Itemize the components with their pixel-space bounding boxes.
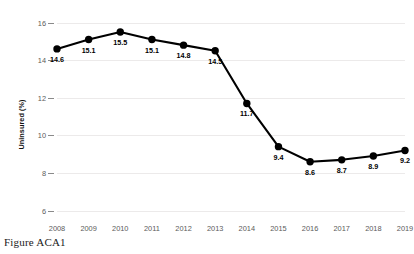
y-tick-mark	[48, 173, 54, 174]
y-axis-title: Uninsured (%)	[14, 78, 28, 170]
data-label-2008: 14.6	[50, 55, 64, 64]
y-tick-label: 12	[38, 93, 46, 102]
data-label-2017: 8.7	[337, 166, 347, 175]
data-label-2014: 11.7	[240, 109, 254, 118]
data-label-2015: 9.4	[273, 153, 283, 162]
x-tick-label-2016: 2016	[302, 224, 318, 233]
x-tick-label-2014: 2014	[239, 224, 255, 233]
data-point-2014	[243, 100, 250, 107]
y-tick-mark	[48, 211, 54, 212]
y-tick-mark	[48, 135, 54, 136]
data-label-2016: 8.6	[305, 168, 315, 177]
y-tick-label: 14	[38, 56, 46, 65]
figure-aca1: Uninsured (%) 6810121416 14.615.115.515.…	[0, 0, 414, 254]
x-tick-label-2013: 2013	[207, 224, 223, 233]
data-point-2019	[401, 147, 408, 154]
series-markers-group	[53, 28, 408, 165]
data-point-2012	[180, 41, 187, 48]
x-tick-label-2011: 2011	[144, 224, 160, 233]
y-tick-label: 6	[42, 206, 46, 215]
y-axis-title-label: Uninsured (%)	[17, 99, 26, 149]
data-point-2016	[306, 158, 313, 165]
y-tick-mark	[48, 98, 54, 99]
x-tick-label-2009: 2009	[80, 224, 96, 233]
data-label-2011: 15.1	[145, 46, 159, 55]
y-tick-label: 16	[38, 18, 46, 27]
data-label-2019: 9.2	[400, 156, 410, 165]
plot-area: 6810121416 14.615.115.515.114.814.511.79…	[57, 16, 405, 220]
x-tick-label-2015: 2015	[270, 224, 286, 233]
x-tick-label-2012: 2012	[175, 224, 191, 233]
y-tick-mark	[48, 23, 54, 24]
x-tick-label-2019: 2019	[397, 224, 413, 233]
x-tick-label-2018: 2018	[365, 224, 381, 233]
data-point-2008	[53, 45, 60, 52]
data-point-2018	[370, 152, 377, 159]
data-label-2009: 15.1	[82, 46, 96, 55]
data-label-2013: 14.5	[208, 57, 222, 66]
figure-caption: Figure ACA1	[4, 236, 66, 248]
y-tick-label: 8	[42, 168, 46, 177]
data-label-2018: 8.9	[368, 162, 378, 171]
data-point-2015	[275, 143, 282, 150]
x-tick-label-2008: 2008	[49, 224, 65, 233]
x-tick-label-2010: 2010	[112, 224, 128, 233]
data-point-2013	[211, 47, 218, 54]
data-label-2012: 14.8	[177, 51, 191, 60]
data-point-2010	[117, 28, 124, 35]
data-label-2010: 15.5	[113, 38, 127, 47]
x-tick-label-2017: 2017	[333, 224, 349, 233]
data-point-2009	[85, 36, 92, 43]
data-point-2011	[148, 36, 155, 43]
y-tick-label: 10	[38, 131, 46, 140]
series-line-chart	[57, 16, 405, 220]
data-point-2017	[338, 156, 345, 163]
series-line-path	[57, 32, 405, 162]
